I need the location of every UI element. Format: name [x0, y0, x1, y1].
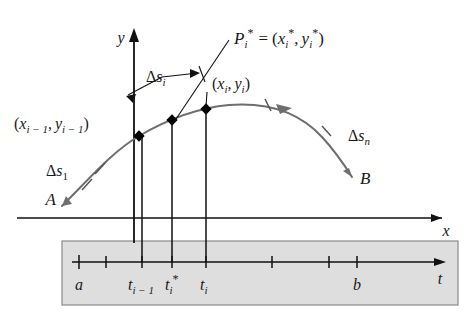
label-sample-point: Pi*=(xi*,yi*) — [233, 26, 324, 50]
svg-text:Δsn: Δsn — [348, 127, 371, 147]
label-point-i-minus-1: (xi − 1,yi − 1) — [14, 115, 89, 135]
label-delta-s-1: Δs1 — [46, 162, 68, 182]
label-delta-s-n: Δsn — [348, 127, 371, 147]
t-label-i-minus-1-sub: i − 1 — [132, 284, 153, 296]
label-point-i-x: x — [216, 75, 224, 92]
label-prev-comma: , — [48, 115, 52, 132]
label-prev-x: x — [18, 115, 26, 132]
label-prev-x-sub: i − 1 — [26, 123, 47, 135]
svg-text:Pi*=(xi*,yi*): Pi*=(xi*,yi*) — [233, 26, 324, 50]
x-axis — [17, 214, 442, 222]
drop-lines — [142, 111, 206, 262]
curve-start-label: A — [45, 190, 57, 209]
label-sample-p: P — [233, 29, 244, 48]
label-sample-y: y — [300, 29, 310, 48]
label-sample-close: ) — [318, 29, 324, 48]
label-sample-comma: , — [294, 29, 298, 48]
line-integral-diagram: x y — [0, 0, 472, 318]
curve-direction-arrow — [276, 104, 292, 114]
label-prev-y-sub: i − 1 — [62, 123, 83, 135]
label-point-i-comma: , — [228, 75, 232, 92]
svg-text:Δsi: Δsi — [146, 68, 166, 88]
t-label-b: b — [353, 276, 361, 293]
label-sample-eq: = — [258, 29, 268, 48]
delta-s-i-delta: Δ — [146, 68, 156, 85]
svg-text:(xi,yi): (xi,yi) — [212, 75, 250, 95]
t-label-a: a — [75, 276, 83, 293]
delta-s-i-sub: i — [163, 76, 166, 88]
label-point-i-close: ) — [245, 75, 250, 93]
label-point-i: (xi,yi) — [212, 75, 250, 95]
curve-end-arrow — [343, 168, 352, 177]
delta-s-1-sub: 1 — [63, 170, 69, 182]
t-label-i-sub: i — [204, 284, 207, 296]
delta-s-1-delta: Δ — [46, 162, 56, 179]
t-axis-panel — [62, 241, 458, 305]
svg-text:Δs1: Δs1 — [46, 162, 68, 182]
y-axis-label: y — [115, 29, 125, 47]
parametric-curve — [62, 105, 352, 206]
svg-text:(xi − 1,yi − 1): (xi − 1,yi − 1) — [14, 115, 89, 135]
delta-s-n-sub: n — [365, 135, 371, 147]
point-i-minus-1-marker — [133, 130, 144, 141]
label-prev-close: ) — [84, 115, 89, 133]
delta-s-n-delta: Δ — [348, 127, 358, 144]
figure-root: x y — [0, 0, 472, 318]
x-axis-label: x — [441, 222, 449, 239]
label-delta-s-i: Δsi — [146, 68, 166, 88]
t-label-i-star-star: * — [173, 272, 179, 286]
curve-end-label: B — [360, 169, 371, 188]
label-sample-p-star: * — [247, 26, 253, 40]
leader-delta-s-i-right-arrow — [190, 69, 200, 78]
t-axis-label-text: t — [438, 270, 443, 287]
